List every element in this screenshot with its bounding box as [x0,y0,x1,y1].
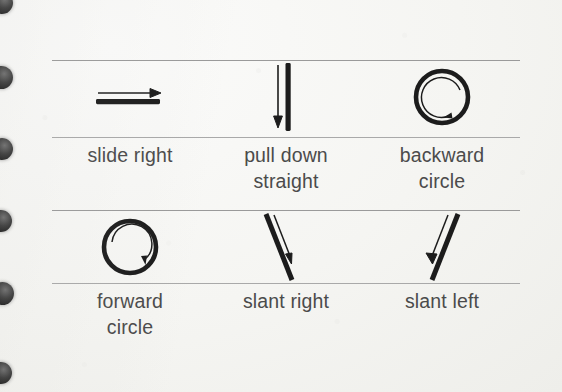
binding-hole [0,362,12,384]
binding-hole [0,282,14,305]
notebook-page: slide right pull down straight backward … [0,0,562,392]
cell-label-line2: circle [400,169,485,195]
table-row-labels: forward circle slant right slant left [52,284,520,354]
table-cell-icon [52,211,208,287]
binding-hole [0,0,13,14]
table-cell-label: forward circle [52,284,208,340]
gesture-reference-table: slide right pull down straight backward … [52,60,520,348]
cell-label-line2: straight [244,169,328,195]
binding-hole [0,210,12,232]
table-cell-icon [208,61,364,137]
table-cell-icon [364,61,520,137]
clockwise-circle-icon [99,216,161,282]
table-cell-label: slide right [52,138,208,169]
cell-label-line1: backward [400,144,485,166]
table-cell-label: slant left [364,284,520,315]
cell-label-line1: slide right [87,144,172,166]
table-cell-icon [208,211,364,287]
table-cell-label: slant right [208,284,364,315]
cell-label-line1: forward [97,290,163,312]
table-cell-label: pull down straight [208,138,364,194]
table-cell-icon [364,211,520,287]
cell-label-line1: slant right [243,290,329,312]
table-row [52,211,520,287]
table-cell-icon [52,61,208,137]
diagonal-stroke-down-right-icon [258,210,314,288]
binding-hole [0,66,13,89]
binding-hole [0,138,13,160]
cell-label-line2: circle [97,315,163,341]
counterclockwise-circle-icon [411,66,473,132]
diagonal-stroke-down-left-icon [414,210,470,288]
cell-label-line1: pull down [244,144,328,166]
table-cell-label: backward circle [364,138,520,194]
table-row [52,61,520,137]
cell-label-line1: slant left [405,290,479,312]
table-row-labels: slide right pull down straight backward … [52,138,520,208]
arrow-right-over-bar-icon [92,79,168,119]
arrow-down-beside-bar-icon [266,61,306,137]
